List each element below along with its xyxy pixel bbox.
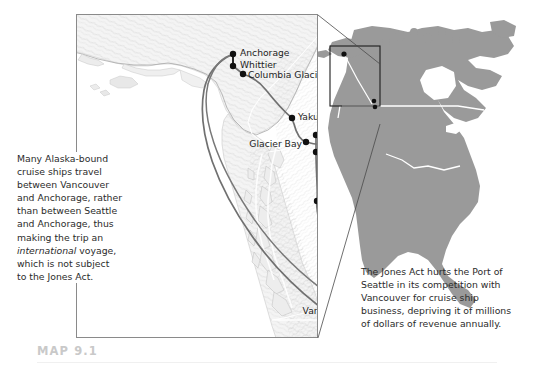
callout-left-line-9: which is not subject (17, 258, 109, 269)
callout-left-line-5: than between Seattle (17, 205, 117, 216)
callout-right-line-1: The Jones Act hurts the Port of (361, 266, 503, 277)
callout-right-line-3: Vancouver for cruise ship (361, 292, 479, 303)
callout-left-line-8-rest: voyage, (76, 245, 116, 256)
city-label-columbia-glacier: Columbia Glacier (248, 69, 318, 80)
city-label-anchorage: Anchorage (240, 47, 290, 58)
city-label-glacier-bay: Glacier Bay (244, 138, 302, 149)
callout-left: Many Alaska-bound cruise ships travel be… (17, 152, 129, 283)
callout-left-italic-word: international (17, 245, 76, 256)
callout-left-line-1: Many Alaska-bound (17, 153, 108, 164)
city-label-seattle: Seattle (308, 328, 318, 338)
figure-label: MAP 9.1 (37, 344, 98, 358)
figure-canvas: Anchorage Whittier Columbia Glacier Yaku… (0, 0, 534, 368)
callout-left-line-3: between Vancouver (17, 179, 109, 190)
callout-right-line-4: business, depriving it of millions (361, 305, 511, 316)
city-label-yakutat-bay: Yakutat Bay (298, 111, 318, 122)
callout-left-line-7: making the trip an (17, 232, 103, 243)
callout-right-line-5: of dollars of revenue annually. (361, 318, 501, 329)
callout-left-line-2: cruise ships travel (17, 166, 102, 177)
callout-right: The Jones Act hurts the Port of Seattle … (361, 265, 523, 330)
city-label-vancouver: Vancouver (294, 305, 318, 316)
callout-right-line-2: Seattle in its competition with (361, 279, 501, 290)
figure-divider (37, 362, 497, 363)
callout-left-line-4: and Anchorage, rather (17, 192, 122, 203)
callout-left-line-10: to the Jones Act. (17, 271, 93, 282)
callout-left-line-6: and Anchorage, thus (17, 218, 114, 229)
